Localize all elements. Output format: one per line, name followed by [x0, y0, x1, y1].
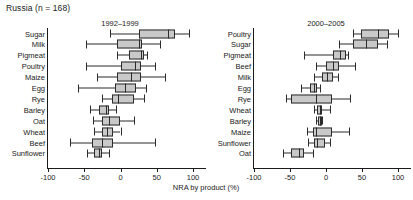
box-plot-row — [0, 39, 413, 50]
x-axis-tick-label: 50 — [153, 173, 161, 182]
median-line — [340, 51, 341, 60]
whisker-cap-low — [286, 95, 287, 103]
boxplot-figure: Russia (n = 168) 1992–1999-100-50050100S… — [0, 0, 413, 200]
panel-title: 1992–1999 — [80, 19, 160, 28]
median-line — [378, 29, 379, 38]
x-axis-tick — [254, 169, 255, 172]
whisker-cap-low — [301, 84, 302, 92]
whisker-cap-low — [339, 40, 340, 48]
whisker-cap-high — [349, 128, 350, 136]
median-line — [366, 40, 367, 49]
whisker-cap-high — [350, 95, 351, 103]
x-axis-tick-label: 100 — [392, 173, 405, 182]
panel-title: 2000–2005 — [286, 19, 366, 28]
x-axis-tick — [121, 169, 122, 172]
whisker-cap-high — [348, 51, 349, 59]
median-line — [316, 127, 317, 136]
box-plot-row — [0, 50, 413, 61]
whisker-cap-high — [330, 106, 331, 114]
whisker-cap-low — [316, 117, 317, 125]
x-axis-tick — [84, 169, 85, 172]
whisker-cap-high — [355, 62, 356, 70]
box-iqr — [361, 29, 390, 38]
x-axis-tick — [157, 169, 158, 172]
box-plot-row — [0, 104, 413, 115]
whisker-cap-high — [387, 40, 388, 48]
whisker-cap-high — [338, 73, 339, 81]
box-plot-row — [0, 148, 413, 159]
whisker-cap-low — [283, 149, 284, 157]
x-axis-tick — [48, 169, 49, 172]
box-iqr — [314, 138, 324, 147]
x-axis-tick — [193, 169, 194, 172]
whisker-cap-low — [308, 139, 309, 147]
x-axis-tick-label: -50 — [285, 173, 296, 182]
x-axis-line — [253, 168, 411, 169]
x-axis-line — [47, 168, 206, 169]
median-line — [299, 149, 300, 158]
x-axis-tick-label: 0 — [324, 173, 328, 182]
x-axis-label: NRA by product (%) — [173, 183, 239, 192]
whisker-cap-low — [304, 51, 305, 59]
box-iqr — [291, 94, 331, 103]
x-axis-tick — [362, 169, 363, 172]
box-plot-row — [0, 83, 413, 94]
figure-title: Russia (n = 168) — [6, 3, 70, 13]
x-axis-tick — [398, 169, 399, 172]
x-axis-tick — [326, 169, 327, 172]
whisker-cap-low — [314, 73, 315, 81]
median-line — [317, 138, 318, 147]
x-axis-tick — [290, 169, 291, 172]
whisker-cap-low — [353, 30, 354, 38]
whisker-cap-high — [313, 149, 314, 157]
box-plot-row — [0, 126, 413, 137]
median-line — [320, 116, 321, 125]
box-plot-row — [0, 115, 413, 126]
box-plot-row — [0, 93, 413, 104]
median-line — [320, 105, 321, 114]
median-line — [316, 94, 317, 103]
box-plot-row — [0, 137, 413, 148]
whisker-cap-low — [307, 128, 308, 136]
x-axis-tick-label: -100 — [246, 173, 261, 182]
median-line — [333, 62, 334, 71]
x-axis-tick-label: 100 — [187, 173, 200, 182]
x-axis-tick-label: 50 — [358, 173, 366, 182]
whisker-cap-low — [314, 106, 315, 114]
whisker-cap-high — [330, 139, 331, 147]
x-axis-tick-label: -50 — [79, 173, 90, 182]
box-plot-row — [0, 61, 413, 72]
median-line — [327, 73, 328, 82]
x-axis-tick-label: 0 — [118, 173, 122, 182]
whisker-cap-low — [316, 62, 317, 70]
x-axis-tick-label: -100 — [40, 173, 55, 182]
median-line — [314, 84, 315, 93]
whisker-cap-high — [322, 117, 323, 125]
box-plot-row — [0, 72, 413, 83]
whisker-cap-high — [398, 30, 399, 38]
whisker-cap-high — [320, 84, 321, 92]
box-plot-row — [0, 28, 413, 39]
